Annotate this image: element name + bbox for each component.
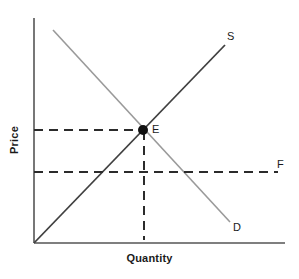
demand-curve-label: D: [233, 221, 241, 233]
x-axis-title: Quantity: [0, 252, 299, 264]
equilibrium-point-marker: [138, 125, 148, 135]
supply-curve-label: S: [227, 30, 234, 42]
y-axis-title-text: Price: [8, 126, 20, 154]
chart-plot-area: [0, 0, 299, 279]
equilibrium-point-label: E: [152, 123, 159, 135]
reference-line-label-f: F: [277, 158, 284, 170]
supply-curve: [34, 45, 225, 243]
y-axis-title: Price: [0, 0, 28, 279]
supply-demand-chart: S D E F Price Quantity: [0, 0, 299, 279]
